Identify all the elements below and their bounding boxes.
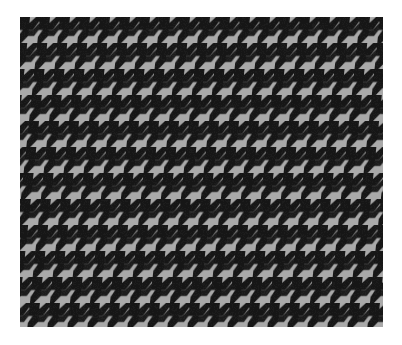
houndstooth-pattern <box>20 17 383 327</box>
houndstooth-fabric-swatch <box>20 17 383 327</box>
